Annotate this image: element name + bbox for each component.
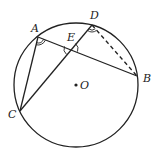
circle-geometry-diagram: A D E B C O [0, 0, 155, 156]
angle-mark-d [88, 29, 97, 32]
label-o: O [80, 79, 89, 92]
label-a: A [30, 22, 39, 35]
segment-db-dashed [92, 25, 137, 76]
label-d: D [89, 9, 99, 22]
center-point-o [74, 83, 77, 86]
label-e: E [66, 31, 75, 44]
label-b: B [142, 72, 151, 85]
label-c: C [8, 108, 17, 121]
